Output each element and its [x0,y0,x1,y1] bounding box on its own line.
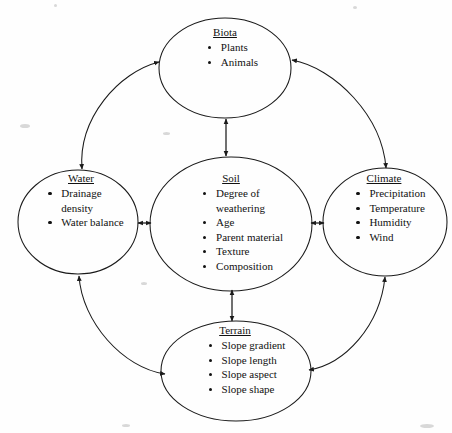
list-item: Slope aspect [207,367,286,382]
arc-biota-climate [292,60,386,168]
list-item: Slope length [207,353,286,368]
list-item: Parent material [201,230,283,245]
node-water-title: Water [68,172,94,185]
scan-speck [163,132,170,135]
node-terrain[interactable]: Terrain Slope gradient Slope length Slop… [160,324,310,396]
list-item: Temperature [354,201,425,216]
arc-water-biota [82,62,159,169]
list-item: Drainage density [46,186,123,215]
list-item: Slope shape [207,382,286,397]
arc-climate-terrain [309,277,385,370]
node-terrain-title: Terrain [219,324,251,337]
scan-speck [141,282,147,285]
list-item: Slope gradient [207,338,286,353]
scan-speck [54,4,57,7]
list-item: Plants [206,40,258,55]
node-soil[interactable]: Soil Degree of weathering Age Parent mat… [152,172,310,273]
list-item: Texture [201,244,283,259]
list-item: Composition [201,259,283,274]
node-biota-items: Plants Animals [192,40,258,69]
node-biota[interactable]: Biota Plants Animals [158,26,292,69]
list-item: Age [201,215,283,230]
scan-speck [353,6,357,9]
node-terrain-items: Slope gradient Slope length Slope aspect… [185,338,286,396]
node-climate-title: Climate [367,172,402,185]
node-water-items: Drainage density Water balance [38,186,123,230]
list-item: Animals [206,55,258,70]
node-soil-items: Degree of weathering Age Parent material… [179,186,283,273]
node-biota-title: Biota [213,26,237,39]
list-item: Humidity [354,215,425,230]
scan-speck [122,424,130,427]
list-item: Precipitation [354,186,425,201]
scan-speck [420,424,434,428]
node-water[interactable]: Water Drainage density Water balance [22,172,140,230]
list-item: Degree of weathering [201,186,283,215]
node-climate[interactable]: Climate Precipitation Temperature Humidi… [324,172,444,244]
node-soil-title: Soil [222,172,240,185]
diagram-canvas: Biota Plants Animals Water Drainage dens… [0,0,452,433]
list-item: Wind [354,230,425,245]
list-item: Water balance [46,215,123,230]
arc-terrain-water [79,276,165,374]
node-climate-items: Precipitation Temperature Humidity Wind [342,186,425,244]
scan-speck [20,124,30,128]
